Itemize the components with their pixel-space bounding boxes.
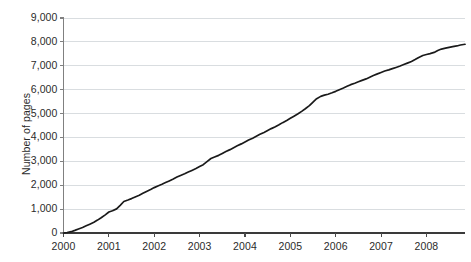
- data-line-group: [64, 44, 466, 233]
- y-tick-label: 9,000: [31, 11, 58, 23]
- x-tick-label: 2003: [178, 240, 222, 252]
- y-tick-label: 6,000: [31, 83, 58, 95]
- x-tick-label: 2006: [314, 240, 358, 252]
- y-tick-label: 2,000: [31, 178, 58, 190]
- tickmarks-group: [60, 18, 427, 237]
- x-tick-label: 2000: [42, 240, 86, 252]
- y-tick-label: 8,000: [31, 35, 58, 47]
- y-tick-label: 3,000: [31, 154, 58, 166]
- x-tick-label: 2002: [132, 240, 176, 252]
- y-tick-label: 7,000: [31, 59, 58, 71]
- x-tick-label: 2008: [404, 240, 448, 252]
- gridlines-group: [64, 18, 466, 209]
- data-series-line: [64, 44, 466, 233]
- chart-plot-svg: [0, 0, 471, 262]
- y-tick-label: 5,000: [31, 107, 58, 119]
- x-tick-label: 2001: [87, 240, 131, 252]
- x-tick-label: 2007: [359, 240, 403, 252]
- x-tick-label: 2005: [268, 240, 312, 252]
- y-tick-label: 0: [52, 226, 58, 238]
- x-tick-label: 2004: [223, 240, 267, 252]
- y-tick-label: 1,000: [31, 202, 58, 214]
- chart-container: 01,0002,0003,0004,0005,0006,0007,0008,00…: [0, 0, 471, 262]
- y-tick-label: 4,000: [31, 130, 58, 142]
- y-axis-title: Number of pages: [20, 93, 32, 175]
